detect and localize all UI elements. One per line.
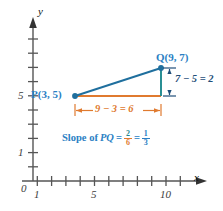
origin-label: 0 [21,183,27,194]
slope-fraction-rise-over-run: 2 6 [124,130,132,147]
y-axis-label: y [38,6,43,17]
y-axis-arrowhead [29,17,37,28]
slope-frac1-denominator: 6 [124,138,132,147]
point-marker-p [72,93,78,99]
slope-frac1-numerator: 2 [124,130,132,138]
slope-pq-text: PQ [100,133,114,144]
slope-equals-2: = [134,133,140,144]
hypotenuse-segment-pq [75,68,161,96]
slope-expression: Slope of PQ = 2 6 = 1 3 [62,130,150,147]
point-label-q: Q(9, 7) [156,52,188,63]
slope-equals-1: = [116,133,122,144]
slope-prefix-text: Slope of [62,133,98,144]
x-tick-label-10: 10 [160,189,171,200]
rise-annotation-label: 7 − 5 = 2 [175,74,214,85]
y-tick-label-1: 1 [18,147,24,158]
slope-fraction-reduced: 1 3 [142,130,150,147]
run-annotation-label: 9 − 3 = 6 [95,104,134,115]
slope-diagram-figure: x y 0 1 5 10 1 5 P(3, 5) Q(9, 7) 9 − 3 =… [0,0,223,211]
slope-frac2-numerator: 1 [142,130,150,138]
x-tick-label-5: 5 [91,189,97,200]
point-label-p: P(3, 5) [31,89,62,100]
y-tick-label-5: 5 [18,90,24,101]
x-tick-label-1: 1 [34,189,40,200]
x-axis-label: x [194,172,199,183]
rise-dimension-arrowheads [167,69,171,95]
slope-frac2-denominator: 3 [142,138,150,147]
